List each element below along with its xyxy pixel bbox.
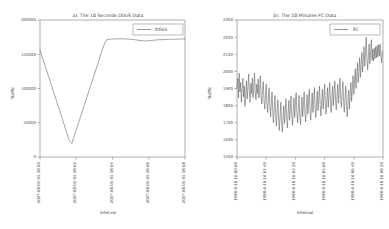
y-tick-label: 1500	[223, 154, 233, 159]
y-tick-label: 2200	[223, 35, 233, 40]
x-tick-label: 1998-6-10 16:01:40	[262, 161, 267, 200]
y-tick-label: 1900	[223, 86, 233, 91]
x-axis-a: 2007-08-05 05:38:002007-08-05 05:38:0220…	[36, 157, 186, 203]
chart-svg-a: a). The 10 Seconds DDoS Data 05000010000…	[0, 0, 194, 229]
y-axis-label-a: Traffic	[10, 86, 15, 100]
x-axis-label-a: Interval	[100, 210, 116, 215]
chart-title-b: b). The 10 Minutes FC Data	[274, 13, 337, 18]
y-axis-label-b: Traffic	[207, 86, 212, 100]
chart-panel-a: a). The 10 Seconds DDoS Data 05000010000…	[0, 0, 194, 229]
legend-b[interactable]: FC	[330, 24, 380, 35]
y-tick-label: 2300	[223, 17, 233, 22]
y-tick-label: 2000	[223, 69, 233, 74]
x-axis-label-b: Interval	[297, 210, 313, 215]
axis-frame-top-b	[237, 20, 383, 157]
x-tick-label: 2007-08-05 05:38:04	[109, 161, 114, 203]
y-tick-label: 100000	[21, 86, 36, 91]
x-tick-label: 2007-08-05 05:38:00	[36, 161, 41, 203]
y-tick-label: 150000	[21, 52, 36, 57]
x-tick-label: 1998-6-10 16:08:20	[379, 161, 384, 200]
y-tick-label: 50000	[24, 120, 37, 125]
x-tick-label: 2007-08-05 05:38:08	[181, 161, 186, 203]
axis-frame-top-a	[40, 20, 185, 157]
series-line-a	[40, 39, 185, 144]
y-tick-label: 1600	[223, 137, 233, 142]
y-tick-label: 200000	[21, 17, 36, 22]
legend-a[interactable]: DDoS	[133, 24, 183, 35]
y-tick-label: 1700	[223, 120, 233, 125]
x-tick-label: 1998-6-10 16:00:00	[233, 161, 238, 200]
y-tick-label: 1800	[223, 103, 233, 108]
x-axis-b: 1998-6-10 16:00:001998-6-10 16:01:401998…	[233, 157, 384, 201]
axis-frame-b	[237, 20, 383, 157]
y-tick-label: 2100	[223, 52, 233, 57]
x-tick-label: 1998-6-10 16:06:40	[350, 161, 355, 200]
x-tick-label: 1998-6-10 16:05:00	[321, 161, 326, 200]
figure-container: a). The 10 Seconds DDoS Data 05000010000…	[0, 0, 389, 229]
y-axis-a: 050000100000150000200000	[21, 17, 40, 159]
chart-svg-b: b). The 10 Minutes FC Data 1500160017001…	[195, 0, 389, 229]
axis-frame-a	[40, 20, 185, 157]
x-tick-label: 2007-08-05 05:38:06	[145, 161, 150, 203]
y-axis-b: 150016001700180019002000210022002300	[223, 17, 237, 159]
y-tick-label: 0	[34, 154, 37, 159]
series-line-b	[237, 37, 382, 132]
chart-title-a: a). The 10 Seconds DDoS Data	[73, 13, 144, 18]
chart-panel-b: b). The 10 Minutes FC Data 1500160017001…	[195, 0, 389, 229]
legend-label-a: DDoS	[155, 27, 167, 32]
x-tick-label: 2007-08-05 05:38:02	[72, 161, 77, 203]
x-tick-label: 1998-6-10 16:03:20	[291, 161, 296, 200]
legend-label-b: FC	[353, 27, 359, 32]
